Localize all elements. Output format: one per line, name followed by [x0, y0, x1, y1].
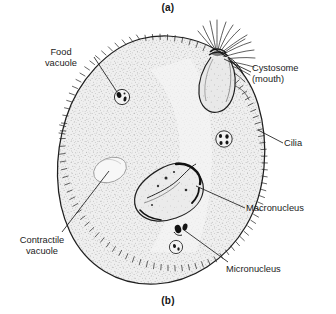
- panel-label-b: (b): [0, 295, 336, 306]
- label-cilia: Cilia: [284, 138, 332, 149]
- label-micronucleus: Micronucleus: [226, 264, 310, 275]
- label-macronucleus: Macronucleus: [246, 203, 334, 214]
- figure-root: (a): [0, 0, 336, 314]
- food-vacuole-lower: [169, 240, 182, 253]
- label-contractile-vacuole: Contractile vacuole: [6, 235, 78, 257]
- label-food-vacuole: Food vacuole: [28, 47, 94, 69]
- label-cystosome: Cystosome (mouth): [252, 63, 334, 85]
- food-vacuole-right: [216, 131, 232, 147]
